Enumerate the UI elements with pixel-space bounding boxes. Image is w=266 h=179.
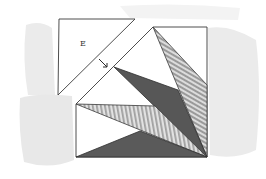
arrow-icon (99, 59, 107, 67)
piece-e-label: E (80, 39, 86, 48)
quilt-diagram: E (0, 0, 266, 179)
